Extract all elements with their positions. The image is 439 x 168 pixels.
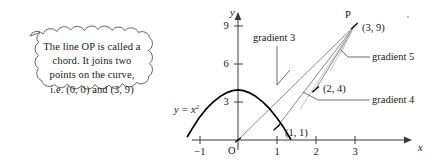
scan-speck (407, 16, 409, 18)
y-tick-label-3: 3 (220, 97, 232, 108)
leader-gradient-3 (277, 46, 290, 85)
point-2-4-coord-label: (2, 4) (323, 84, 346, 95)
x-tick-label--1: −1 (190, 147, 210, 158)
callout-text-block: The line OP is called a chord. It joins … (24, 40, 160, 97)
curve-equation-label: y = x2 (174, 105, 199, 116)
parabola-curve (188, 90, 291, 139)
x-tick-label-2: 2 (309, 147, 323, 158)
y-tick-label-6: 6 (220, 59, 232, 70)
callout-line-2: chord. It joins two (24, 54, 160, 68)
y-axis-label: y (230, 8, 235, 19)
point-1-1-coord-label: (1, 1) (285, 128, 308, 139)
callout-line-4: i.e. (0, 0) and (3, 9) (24, 83, 160, 97)
x-axis-label: x (418, 143, 423, 154)
leader-gradient-5 (341, 50, 370, 57)
gradient-5-label: gradient 5 (372, 52, 414, 63)
chord-fan-extra-1 (300, 26, 354, 109)
curve-equation-exponent: 2 (196, 103, 200, 111)
point-P-coord-label: (3, 9) (362, 23, 385, 34)
curve-equation-text: y = x (174, 104, 196, 115)
parabola-chord-figure: The line OP is called a chord. It joins … (0, 0, 439, 168)
x-tick-label-3: 3 (348, 147, 362, 158)
gradient-3-label: gradient 3 (253, 33, 295, 44)
origin-label: O (228, 146, 236, 157)
callout-line-1: The line OP is called a (24, 40, 160, 54)
point-P-label: P (345, 10, 351, 21)
callout-line-3: points on the curve, (24, 68, 160, 82)
x-tick-label-1: 1 (270, 147, 284, 158)
y-axis (235, 12, 242, 150)
y-tick-label-9: 9 (220, 21, 232, 32)
chord-fan-extra-3 (341, 26, 354, 53)
gradient-4-label: gradient 4 (372, 95, 414, 106)
